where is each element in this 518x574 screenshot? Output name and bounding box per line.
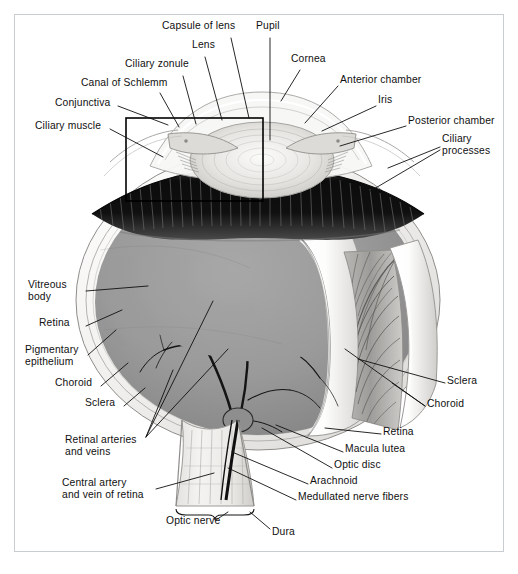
label-ciliary-zonule: Ciliary zonule	[125, 58, 189, 70]
leader-ciliary-muscle	[110, 129, 163, 157]
label-conjunctiva: Conjunctiva	[55, 97, 110, 109]
label-sclera-left: Sclera	[85, 397, 115, 409]
label-retinal-arteries-and-veins: Retinal arteries and veins	[65, 434, 137, 457]
label-lens: Lens	[192, 39, 215, 51]
label-sclera-right: Sclera	[447, 375, 477, 387]
label-optic-disc: Optic disc	[334, 459, 381, 471]
leader-dura	[250, 512, 270, 529]
label-canal-of-schlemm: Canal of Schlemm	[81, 77, 168, 89]
label-capsule-of-lens: Capsule of lens	[162, 20, 235, 32]
label-dura: Dura	[272, 526, 295, 538]
leader-canal-of-schlemm	[160, 93, 179, 127]
optic-nerve-stalk	[176, 420, 254, 520]
label-anterior-chamber: Anterior chamber	[340, 74, 421, 86]
leader-ciliary-processes-b	[362, 150, 440, 196]
label-posterior-chamber: Posterior chamber	[408, 115, 495, 127]
label-ciliary-processes: Ciliary processes	[442, 133, 490, 156]
label-cornea: Cornea	[291, 53, 326, 65]
label-choroid-right: Choroid	[427, 398, 464, 410]
label-central-artery-and-vein: Central artery and vein of retina	[62, 477, 144, 500]
label-retina-left: Retina	[39, 317, 70, 329]
label-medullated-nerve-fibers: Medullated nerve fibers	[298, 491, 408, 503]
label-pigmentary-epithelium: Pigmentary epithelium	[25, 344, 79, 367]
label-ciliary-muscle: Ciliary muscle	[35, 120, 101, 132]
lens-body	[190, 122, 334, 198]
label-choroid-left: Choroid	[55, 377, 92, 389]
figure-root: Capsule of lens Pupil Lens Cornea Ciliar…	[0, 0, 518, 574]
label-pupil: Pupil	[256, 20, 280, 32]
label-vitreous-body: Vitreous body	[28, 279, 67, 302]
label-macula-lutea: Macula lutea	[345, 443, 405, 455]
label-retina-right: Retina	[383, 426, 414, 438]
label-optic-nerve: Optic nerve	[166, 515, 220, 527]
label-arachnoid: Arachnoid	[310, 475, 358, 487]
label-iris: Iris	[378, 94, 392, 106]
